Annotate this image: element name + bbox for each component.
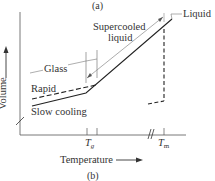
label-rapid: Rapid xyxy=(31,84,56,95)
label-glass: Glass xyxy=(43,64,68,75)
glass-leader-2 xyxy=(86,59,97,61)
caption-bottom: (b) xyxy=(87,171,99,181)
tm-sub: m xyxy=(164,142,169,150)
caption-top: (a) xyxy=(92,1,103,11)
arrowhead-supercooled-top xyxy=(158,17,163,22)
label-slow-cooling: Slow cooling xyxy=(31,107,87,118)
label-supercooled-2: liquid xyxy=(108,33,133,44)
y-axis-label: Volume xyxy=(0,77,8,109)
temperature-arrowhead xyxy=(136,158,143,163)
tick-label-tg: Tg xyxy=(85,138,94,150)
x-axis-label: Temperature xyxy=(60,155,113,166)
crystal-line xyxy=(148,101,164,104)
x-axis-break xyxy=(148,129,151,139)
label-supercooled-1: Supercooled xyxy=(93,22,146,33)
x-axis-break-2 xyxy=(151,129,154,139)
volume-arrowhead xyxy=(4,46,9,53)
label-liquid: Liquid xyxy=(183,9,211,20)
arrowhead-supercooled-bottom xyxy=(87,73,92,78)
tick-label-tm: Tm xyxy=(158,138,169,150)
liquid-leader-down xyxy=(171,14,172,19)
tg-sub: g xyxy=(91,142,95,150)
